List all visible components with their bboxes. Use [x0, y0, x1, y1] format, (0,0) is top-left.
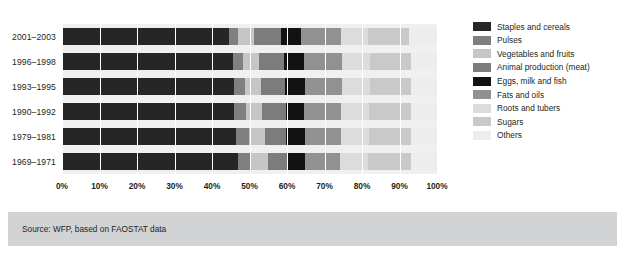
bar-segment	[305, 128, 341, 145]
bar-segment	[251, 153, 268, 170]
bar-segment	[259, 53, 285, 70]
bar-segment	[268, 153, 287, 170]
legend-swatch-icon	[473, 63, 491, 72]
bar-segment	[62, 128, 236, 145]
bar-segment	[62, 28, 229, 45]
legend-label: Vegetables and fruits	[497, 50, 575, 58]
legend-swatch-icon	[473, 131, 491, 140]
bar-segment	[304, 103, 341, 120]
bar-segment	[411, 153, 437, 170]
bar-segment	[254, 28, 281, 45]
bar-segment	[236, 128, 248, 145]
gridline	[212, 24, 213, 176]
bar-segment	[301, 28, 340, 45]
bar-segment	[286, 128, 305, 145]
legend-label: Fats and oils	[497, 91, 544, 99]
legend-swatch-icon	[473, 90, 491, 99]
bar-segment	[233, 53, 244, 70]
gridline	[325, 24, 326, 176]
x-axis-tick: 100%	[426, 181, 447, 191]
gridline	[62, 24, 63, 176]
y-axis-label: 2001–2003	[0, 32, 56, 42]
bar-segment	[287, 153, 306, 170]
x-axis-tick: 50%	[241, 181, 258, 191]
bar-segment	[370, 53, 411, 70]
bar-segment	[342, 78, 369, 95]
gridline	[437, 24, 438, 176]
gridline	[287, 24, 288, 176]
source-note: Source: WFP, based on FAOSTAT data	[22, 224, 166, 234]
bar-segment	[265, 128, 286, 145]
legend-label: Roots and tubers	[497, 104, 560, 112]
bar-segment	[62, 103, 234, 120]
bar-segment	[234, 103, 246, 120]
legend-item[interactable]: Fats and oils	[473, 88, 623, 102]
bar-segment	[341, 28, 369, 45]
y-axis-label: 1969–1971	[0, 157, 56, 167]
bar-segment	[229, 28, 238, 45]
y-axis-label: 1993–1995	[0, 82, 56, 92]
bar-segment	[305, 153, 340, 170]
y-axis-label: 1979–1981	[0, 132, 56, 142]
legend-swatch-icon	[473, 77, 491, 86]
legend-item[interactable]: Pulses	[473, 34, 623, 48]
bar-segment	[286, 103, 305, 120]
y-axis-label: 1990–1992	[0, 107, 56, 117]
bar-segment	[342, 53, 369, 70]
x-axis-tick: 40%	[204, 181, 221, 191]
gridline	[362, 24, 363, 176]
bar-segment	[62, 53, 233, 70]
y-axis-label: 1996–1998	[0, 57, 56, 67]
gridline	[137, 24, 138, 176]
x-axis-tick: 90%	[391, 181, 408, 191]
x-axis-tick: 20%	[129, 181, 146, 191]
bar-segment	[245, 78, 261, 95]
legend-label: Animal production (meat)	[497, 63, 590, 71]
bar-segment	[305, 78, 343, 95]
x-axis-tick: 70%	[316, 181, 333, 191]
legend-item[interactable]: Staples and cereals	[473, 20, 623, 34]
bar-segment	[368, 28, 409, 45]
x-axis-tick: 10%	[91, 181, 108, 191]
bar-segment	[243, 53, 259, 70]
legend-swatch-icon	[473, 22, 491, 31]
legend-swatch-icon	[473, 117, 491, 126]
bar-segment	[409, 28, 437, 45]
gridline	[175, 24, 176, 176]
legend-label: Eggs, milk and fish	[497, 77, 567, 85]
legend-swatch-icon	[473, 49, 491, 58]
x-axis-tick: 30%	[166, 181, 183, 191]
x-axis-ticks: 0%10%20%30%40%50%60%70%80%90%100%	[62, 181, 437, 195]
bar-segment	[411, 103, 437, 120]
legend-swatch-icon	[473, 36, 491, 45]
bar-segment	[340, 153, 368, 170]
chart-figure: 2001–20031996–19981993–19951990–19921979…	[0, 0, 625, 254]
legend-item[interactable]: Roots and tubers	[473, 102, 623, 116]
bar-segment	[341, 103, 369, 120]
bar-segment	[369, 103, 411, 120]
bar-segment	[304, 53, 342, 70]
legend-item[interactable]: Animal production (meat)	[473, 61, 623, 75]
bar-segment	[234, 78, 245, 95]
chart-legend: Staples and cerealsPulsesVegetables and …	[473, 20, 623, 142]
legend-item[interactable]: Others	[473, 129, 623, 143]
footer-band: Source: WFP, based on FAOSTAT data	[8, 212, 617, 246]
legend-item[interactable]: Sugars	[473, 115, 623, 129]
legend-item[interactable]: Eggs, milk and fish	[473, 74, 623, 88]
legend-label: Sugars	[497, 118, 523, 126]
plot-area	[62, 24, 437, 176]
gridline	[100, 24, 101, 176]
legend-item[interactable]: Vegetables and fruits	[473, 47, 623, 61]
legend-label: Others	[497, 131, 522, 139]
bar-segment	[411, 128, 437, 145]
bar-segment	[246, 103, 263, 120]
bar-segment	[261, 78, 285, 95]
gridline	[250, 24, 251, 176]
x-axis-tick: 80%	[354, 181, 371, 191]
x-axis-tick: 60%	[279, 181, 296, 191]
bar-segment	[238, 28, 254, 45]
legend-label: Pulses	[497, 36, 522, 44]
legend-label: Staples and cereals	[497, 23, 570, 31]
bar-segment	[411, 53, 437, 70]
bar-segment	[370, 78, 411, 95]
